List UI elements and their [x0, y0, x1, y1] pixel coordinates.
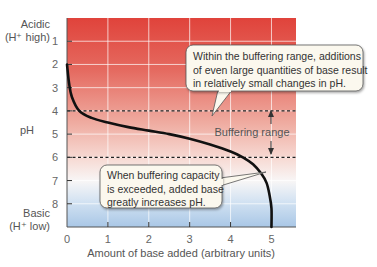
y-tick-label: 3: [52, 82, 58, 94]
y-axis-label: pH: [20, 124, 34, 136]
callout-line: in relatively small changes in pH.: [193, 77, 346, 89]
callout-line: greatly increases pH.: [107, 196, 206, 208]
callout-line: (H⁺ high): [5, 31, 50, 43]
y-tick-label: 8: [52, 198, 58, 210]
callout-line: of even large quantities of base result: [193, 64, 368, 76]
buffering-range-label: Buffering range: [214, 126, 289, 138]
y-tick-label: 2: [52, 58, 58, 70]
x-tick-label: 3: [187, 233, 193, 245]
acidic-label: Acidic(H⁺ high): [5, 18, 51, 43]
callout-line: Within the buffering range, additions: [193, 50, 361, 62]
y-tick-label: 5: [52, 128, 58, 140]
callout-line: (H⁺ low): [9, 220, 50, 232]
callout-line: When buffering capacity: [107, 169, 220, 181]
callout-line: is exceeded, added base: [107, 183, 224, 195]
x-tick-label: 4: [228, 233, 234, 245]
y-tick-label: 7: [52, 175, 58, 187]
x-tick-label: 5: [268, 233, 274, 245]
y-tick-label: 4: [52, 105, 58, 117]
x-tick-label: 0: [64, 233, 70, 245]
y-tick-label: 1: [52, 35, 58, 47]
callout-line: Basic: [23, 207, 50, 219]
x-tick-label: 1: [105, 233, 111, 245]
x-axis-label: Amount of base added (arbitrary units): [87, 247, 275, 259]
titration-figure: 12345678 012345 Buffering range Within t…: [0, 0, 377, 267]
x-tick-label: 2: [146, 233, 152, 245]
callout-line: Acidic: [21, 18, 51, 30]
basic-label: Basic(H⁺ low): [9, 207, 50, 232]
svg-text:Within the buffering range, ad: Within the buffering range, additionsof …: [193, 50, 368, 89]
y-tick-label: 6: [52, 151, 58, 163]
